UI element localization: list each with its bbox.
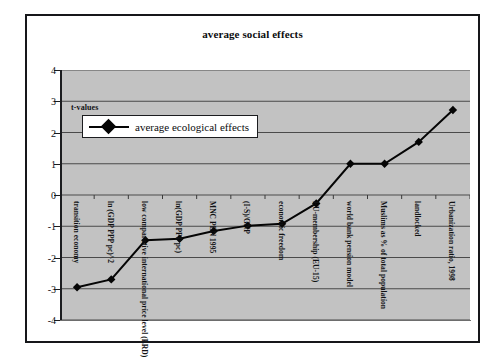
- plot-svg: [60, 70, 470, 320]
- y-axis-tick-label: -2: [48, 252, 56, 263]
- y-axis-tick-label: -1: [48, 221, 56, 232]
- x-tick-marks-group: [60, 195, 470, 199]
- y-axis-tick-label: 4: [51, 65, 56, 76]
- y-axis-tick-label: 2: [51, 127, 56, 138]
- plot-area: [60, 70, 470, 320]
- y-axis-tick-label: 3: [51, 96, 56, 107]
- category-label: landlocked: [414, 201, 422, 237]
- category-label: economic freedom: [277, 201, 285, 260]
- y-axis-tick-label: 1: [51, 158, 56, 169]
- data-point-marker: [73, 283, 81, 291]
- y-axis-tick-label: -3: [48, 283, 56, 294]
- category-label: MNC PEN 1995: [209, 201, 217, 253]
- category-label: low comparative international price leve…: [140, 201, 148, 357]
- category-label: ln(GDP PPP pc): [175, 201, 183, 253]
- category-label: Muslims as % of total population: [380, 201, 388, 309]
- category-label: ln (GDP PPP pc)^2: [106, 201, 114, 263]
- category-label: Urbanization ratio, 1998: [448, 201, 456, 281]
- chart-figure-frame: average social effects 43210-1-2-3-4 t-v…: [25, 14, 480, 343]
- category-label: (I-S)/GNP: [243, 201, 251, 234]
- y-axis-tick-label: 0: [51, 190, 56, 201]
- legend-label: average ecological effects: [135, 121, 249, 133]
- y-axis-tick-label: -4: [48, 315, 56, 326]
- chart-legend: average ecological effects: [82, 115, 258, 138]
- legend-diamond-marker-icon: [89, 120, 129, 134]
- chart-title: average social effects: [27, 28, 478, 40]
- category-label: EU-membership (EU-15): [311, 201, 319, 282]
- x-axis-line: [60, 320, 471, 321]
- t-values-annotation: t-values: [71, 103, 98, 112]
- y-axis-line: [60, 70, 62, 321]
- category-label: world bank pension model: [345, 201, 353, 287]
- category-label: transition economy: [72, 201, 80, 263]
